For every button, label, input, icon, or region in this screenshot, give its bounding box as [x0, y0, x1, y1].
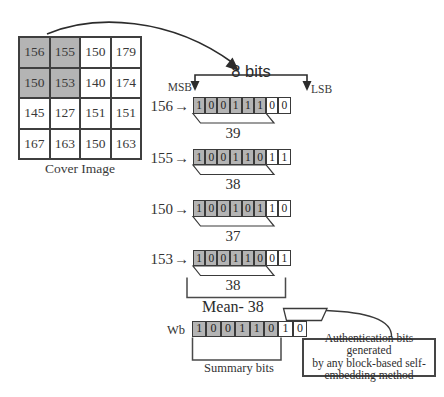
bit-cell: 1 [278, 321, 292, 337]
bit-cell: 0 [278, 200, 290, 217]
bit-cell: 1 [242, 149, 254, 166]
grid-cell: 151 [80, 98, 111, 129]
bit-cell: 1 [278, 250, 290, 267]
wb-label: Wb [156, 323, 185, 338]
auth-callout-box: Authentication bits generatedby any bloc… [302, 338, 436, 377]
pixel-value-label: 155→ [136, 150, 189, 167]
bit-cell: 1 [242, 97, 254, 114]
bit-cell: 1 [230, 250, 242, 267]
bit-cell: 1 [193, 250, 205, 267]
grid-cell: 179 [111, 37, 142, 68]
bit-cell: 0 [254, 149, 266, 166]
pixel-value: 156 [151, 98, 174, 114]
bit-cell: 0 [205, 200, 217, 217]
bit-cell: 0 [221, 321, 235, 337]
bit-cell: 1 [242, 250, 254, 267]
msb-group-trapezoid-row0 [193, 114, 274, 124]
summary-bits-caption: Summary bits [180, 361, 298, 376]
bit-cell: 0 [217, 250, 229, 267]
grid-cell: 155 [50, 37, 81, 68]
bit-cell: 0 [266, 250, 278, 267]
bit-row: 10011011 [193, 149, 291, 166]
bit-row: 10011001 [193, 250, 291, 267]
bit-cell: 0 [266, 97, 278, 114]
bit-cell: 1 [266, 200, 278, 217]
grid-cell: 145 [19, 98, 50, 129]
pixel-value-label: 156→ [136, 98, 189, 115]
pixel-value-label: 150→ [136, 201, 189, 218]
msb-group-trapezoid-row2 [193, 217, 274, 227]
grid-cell: 150 [19, 68, 50, 99]
bit-cell: 1 [230, 200, 242, 217]
auth-callout-line: by any block-based self- [312, 358, 426, 370]
grid-cell: 174 [111, 68, 142, 99]
msb-label: MSB [158, 81, 192, 93]
grid-cell: 150 [80, 37, 111, 68]
bit-cell: 1 [278, 149, 290, 166]
bit-cell: 0 [205, 149, 217, 166]
bit-cell: 1 [266, 149, 278, 166]
bit-row: 10010110 [193, 200, 291, 217]
grid-cell: 127 [50, 98, 81, 129]
bit-row: 10011100 [193, 97, 291, 114]
right-arrow-icon: → [174, 251, 189, 267]
pixel-value: 155 [151, 150, 174, 166]
auth-callout-line: Authentication bits generated [304, 333, 434, 357]
bit-cell: 1 [193, 149, 205, 166]
bit-cell: 1 [230, 97, 242, 114]
auth-callout-line: embedding method [324, 370, 413, 382]
bit-cell: 1 [254, 97, 266, 114]
lsb-label: LSB [311, 83, 345, 95]
grid-cell: 156 [19, 37, 50, 68]
msb-decimal-value: 38 [183, 277, 283, 294]
bit-cell: 1 [254, 200, 266, 217]
bit-cell: 1 [250, 321, 264, 337]
bits-span-label: 8 bits [197, 62, 305, 81]
right-arrow-icon: → [174, 150, 189, 166]
msb-decimal-value: 38 [183, 176, 283, 193]
grid-cell: 140 [80, 68, 111, 99]
summary-bits-bracket [193, 338, 282, 361]
bit-cell: 0 [217, 97, 229, 114]
grid-cell: 150 [80, 129, 111, 160]
grid-cell: 153 [50, 68, 81, 99]
bit-cell: 0 [242, 200, 254, 217]
pixel-value: 150 [151, 201, 174, 217]
msb-decimal-value: 39 [183, 125, 283, 142]
cover-image-grid: 1561551501791501531401741451271511511671… [18, 36, 142, 160]
bit-cell: 0 [205, 97, 217, 114]
msb-decimal-value: 37 [183, 228, 283, 245]
bit-cell: 0 [206, 321, 220, 337]
pixel-value: 153 [151, 251, 174, 267]
grid-cell: 167 [19, 129, 50, 160]
bit-cell: 0 [264, 321, 278, 337]
bit-cell: 1 [230, 149, 242, 166]
bit-cell: 1 [193, 97, 205, 114]
bit-cell: 0 [217, 200, 229, 217]
msb-group-trapezoid-row1 [193, 165, 274, 175]
diagram-canvas: 1561551501791501531401741451271511511671… [0, 0, 444, 397]
msb-group-trapezoid-row3 [193, 266, 274, 276]
bit-cell: 0 [217, 149, 229, 166]
bit-cell: 1 [193, 200, 205, 217]
right-arrow-icon: → [174, 98, 189, 114]
pixel-value-label: 153→ [136, 251, 189, 268]
cover-image-label: Cover Image [18, 161, 142, 177]
bit-cell: 1 [192, 321, 206, 337]
mean-label: Mean- 38 [170, 298, 296, 316]
bit-cell: 0 [205, 250, 217, 267]
bit-cell: 0 [254, 250, 266, 267]
summary-bit-row: 10011010 [192, 321, 307, 337]
bit-cell: 0 [278, 97, 290, 114]
grid-cell: 163 [50, 129, 81, 160]
bit-cell: 1 [235, 321, 249, 337]
right-arrow-icon: → [174, 201, 189, 217]
